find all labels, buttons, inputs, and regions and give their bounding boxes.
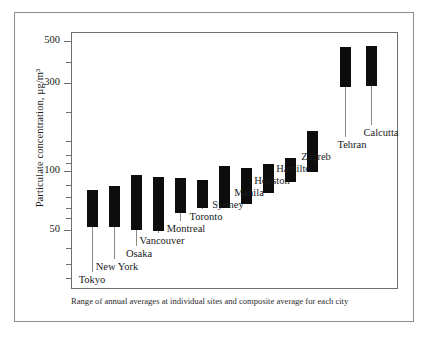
city-label-tehran: Tehran [338,139,367,150]
city-label-zagreb: Zagreb [301,151,331,162]
city-label-sydney: Sydney [212,199,244,210]
label-leader-line [158,231,159,233]
city-label-new-york: New York [96,261,139,272]
range-bar [131,175,142,230]
range-bar [109,186,120,227]
label-leader-line [371,86,372,125]
range-bar [366,46,377,86]
data-bars-layer: TokyoNew YorkOsakaVancouverMontrealToron… [0,0,429,337]
city-label-manila: Manila [234,187,264,198]
label-leader-line [180,213,181,221]
label-leader-line [92,227,93,272]
label-leader-line [136,230,137,246]
range-bar [340,47,351,87]
range-bar [153,177,164,231]
city-label-toronto: Toronto [189,211,222,222]
range-bar [87,190,98,227]
range-bar [241,168,252,204]
figure-caption: Range of annual averages at individual s… [71,296,401,307]
label-leader-line [202,208,203,209]
city-label-osaka: Osaka [126,248,152,259]
label-leader-line [345,87,346,137]
range-bar [175,178,186,213]
range-bar [197,180,208,208]
city-label-montreal: Montreal [167,223,206,234]
city-label-calcutta: Calcutta [364,127,399,138]
figure-container: Particulate concentration, µg/m³ 5003001… [0,0,429,337]
label-leader-line [114,227,115,259]
city-label-vancouver: Vancouver [140,235,185,246]
city-label-tokyo: Tokyo [79,274,106,285]
